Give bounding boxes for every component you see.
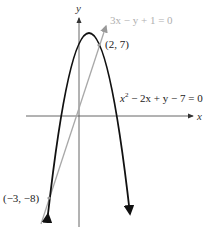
point-lower-label: (−3, −8) [3,192,40,205]
line-equation-label: 3x − y + 1 = 0 [110,14,173,26]
graph: y x 3x − y + 1 = 0 (2, 7) x2 − 2x + y − … [0,0,207,232]
intersection-point-upper [97,43,100,46]
point-upper-label: (2, 7) [105,38,129,51]
x-axis-label: x [196,110,202,122]
intersection-point-lower [47,196,50,199]
parabola-curve [48,33,130,214]
y-axis-label: y [75,2,81,14]
parabola-equation-label: x2 − 2x + y − 7 = 0 [119,91,203,104]
